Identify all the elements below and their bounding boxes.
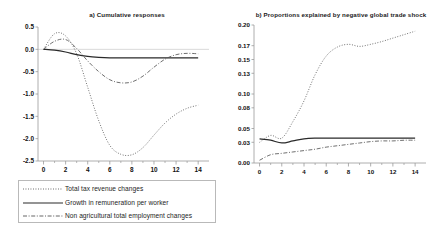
svg-text:8: 8: [130, 166, 134, 173]
svg-text:2: 2: [64, 166, 68, 173]
svg-text:0.15: 0.15: [238, 56, 251, 63]
panel-b-plot: 0.200.170.150.130.100.080.050.030.000246…: [218, 0, 436, 180]
svg-text:-1.0: -1.0: [23, 90, 34, 97]
svg-text:0.00: 0.00: [238, 159, 251, 166]
svg-text:14: 14: [412, 168, 419, 175]
legend-item: Growth in remuneration per worker: [19, 196, 215, 208]
svg-text:8: 8: [347, 168, 351, 175]
panel-a-legend: Total tax revenue changes Growth in remu…: [18, 180, 216, 223]
svg-text:10: 10: [150, 166, 158, 173]
svg-text:14: 14: [195, 166, 203, 173]
svg-text:0.08: 0.08: [238, 104, 251, 111]
svg-text:12: 12: [173, 166, 181, 173]
svg-text:2: 2: [280, 168, 284, 175]
svg-text:-0.5: -0.5: [23, 68, 34, 75]
legend-item: Total tax revenue changes: [19, 183, 215, 195]
legend-label: Growth in remuneration per worker: [65, 199, 169, 206]
panel-a-plot: 0.50.0-0.5-1.0-1.5-2.0-2.502468101214: [0, 0, 218, 180]
svg-text:0.0: 0.0: [25, 46, 34, 53]
legend-label: Non agricultural total employment change…: [65, 212, 192, 219]
svg-text:0.13: 0.13: [238, 70, 251, 77]
svg-text:-1.5: -1.5: [23, 113, 34, 120]
legend-key-dotted-icon: [19, 183, 65, 194]
figure-container: a) Cumulative responses 0.50.0-0.5-1.0-1…: [0, 0, 436, 228]
panel-cumulative-responses: a) Cumulative responses 0.50.0-0.5-1.0-1…: [0, 0, 218, 228]
legend-key-solid-icon: [19, 197, 65, 208]
svg-text:12: 12: [389, 168, 396, 175]
svg-text:4: 4: [86, 166, 90, 173]
svg-text:4: 4: [302, 168, 306, 175]
svg-text:-2.0: -2.0: [23, 135, 34, 142]
svg-text:10: 10: [367, 168, 374, 175]
svg-text:-2.5: -2.5: [23, 157, 34, 164]
svg-text:6: 6: [324, 168, 328, 175]
svg-text:0.20: 0.20: [238, 21, 251, 28]
svg-text:0: 0: [258, 168, 262, 175]
svg-text:0.5: 0.5: [25, 23, 34, 30]
svg-text:0.05: 0.05: [238, 125, 251, 132]
svg-text:0.03: 0.03: [238, 139, 251, 146]
legend-label: Total tax revenue changes: [65, 185, 143, 192]
svg-text:6: 6: [108, 166, 112, 173]
svg-text:0.17: 0.17: [238, 42, 251, 49]
legend-key-dashdot-icon: [19, 210, 65, 221]
svg-text:0.10: 0.10: [238, 90, 251, 97]
svg-text:0: 0: [42, 166, 46, 173]
panel-proportions-explained: b) Proportions explained by negative glo…: [218, 0, 436, 228]
legend-item: Non agricultural total employment change…: [19, 210, 215, 222]
